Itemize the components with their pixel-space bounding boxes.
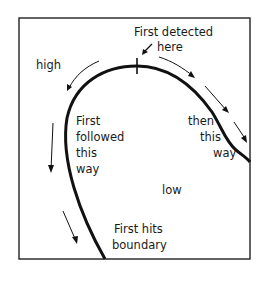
label-then: then (188, 114, 214, 129)
arrow-right-upper-icon (159, 57, 195, 78)
arrow-left-lower-icon (63, 211, 78, 244)
label-first-hits: First hits (114, 222, 163, 237)
label-way-right: way (213, 146, 236, 161)
label-first: First (76, 114, 100, 129)
label-low: low (162, 183, 182, 198)
arrow-left-middle-icon (48, 123, 54, 173)
arrow-right-lower-icon (234, 122, 247, 143)
detected-arrow-icon (142, 44, 152, 55)
label-way-left: way (76, 162, 99, 177)
label-boundary: boundary (112, 238, 167, 253)
label-here: here (157, 40, 183, 55)
label-this-left: this (76, 146, 97, 161)
label-this-right: this (200, 130, 221, 145)
label-followed: followed (76, 130, 124, 145)
label-first-detected: First detected (134, 25, 213, 40)
label-high: high (36, 58, 61, 73)
